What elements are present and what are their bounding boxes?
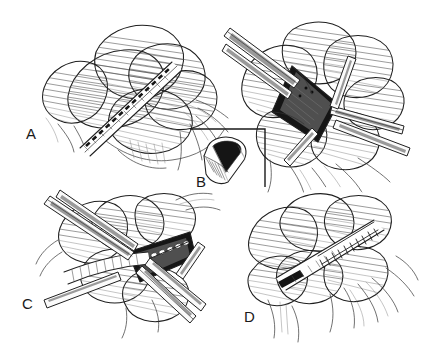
- figure-root: A: [0, 0, 425, 349]
- panel-label-c: C: [22, 295, 33, 312]
- panel-label-d: D: [244, 308, 255, 325]
- panel-label-b: B: [196, 173, 206, 190]
- panel-label-a: A: [26, 125, 36, 142]
- surgical-figure-canvas: A: [0, 0, 425, 349]
